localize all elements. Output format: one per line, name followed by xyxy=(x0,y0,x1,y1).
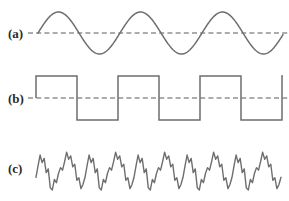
panel-a-label: (a) xyxy=(8,26,23,41)
panel-c-label: (c) xyxy=(8,161,22,176)
panel-b-label: (b) xyxy=(8,91,24,106)
waveform-figure: (a) (b) (c) xyxy=(0,0,289,201)
